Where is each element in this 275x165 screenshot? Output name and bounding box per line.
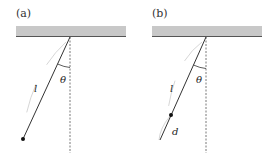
panel-a: (a) θ l <box>16 7 126 153</box>
angle-arc-a <box>58 64 70 68</box>
bob-a <box>21 137 25 141</box>
bob-b <box>169 113 173 117</box>
rod-a <box>23 37 70 139</box>
length-label-b: l <box>170 83 173 94</box>
angle-label-a: θ <box>60 74 66 85</box>
length-guide-arc-a <box>23 42 66 134</box>
panel-b: (b) θ l d <box>152 7 262 153</box>
ceiling-a <box>16 26 126 36</box>
rod-b <box>160 37 206 140</box>
pendulum-diagram: (a) θ l (b) θ l d <box>0 0 275 165</box>
panel-b-label: (b) <box>152 7 168 20</box>
angle-label-b: θ <box>196 74 202 85</box>
panel-a-label: (a) <box>16 7 31 20</box>
offset-guide-arc-b <box>159 116 170 140</box>
length-label-a: l <box>34 83 37 94</box>
angle-arc-b <box>193 65 206 69</box>
offset-label-b: d <box>172 126 178 137</box>
ceiling-b <box>152 26 262 36</box>
